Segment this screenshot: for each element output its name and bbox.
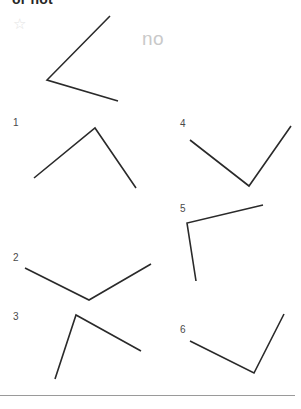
- figure-label-5: 5: [180, 203, 186, 214]
- angle-figures-canvas: [0, 0, 301, 409]
- angle-polyline-4: [190, 126, 291, 186]
- worksheet-page: or not ☆ no 1 4 5 2 3 6: [0, 0, 301, 409]
- no-label: no: [142, 28, 164, 50]
- figure-label-2: 2: [13, 252, 19, 263]
- bottom-divider: [0, 395, 295, 396]
- page-title: or not: [12, 0, 53, 7]
- figure-label-6: 6: [180, 324, 186, 335]
- figure-label-4: 4: [180, 118, 186, 129]
- angle-polyline-2: [25, 264, 151, 300]
- angle-polyline-1: [34, 128, 136, 188]
- angle-polyline-top: [47, 16, 118, 101]
- star-outline-icon[interactable]: ☆: [11, 16, 27, 32]
- header-clip: or not: [0, 0, 301, 9]
- figure-label-3: 3: [13, 311, 19, 322]
- angle-polyline-3: [55, 315, 141, 379]
- figure-label-1: 1: [13, 117, 19, 128]
- angle-polyline-5: [187, 205, 263, 281]
- angle-polyline-6: [190, 314, 284, 373]
